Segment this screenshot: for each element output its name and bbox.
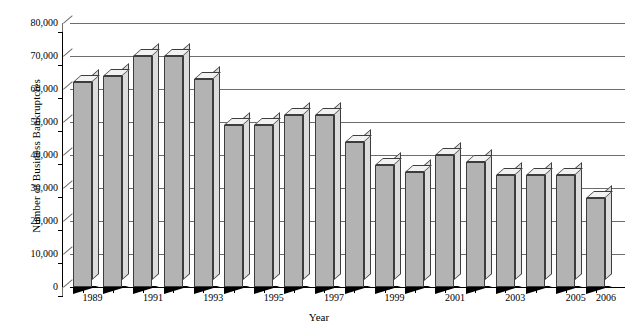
y-tick-label: 50,000 bbox=[14, 117, 58, 127]
bar-side-face bbox=[92, 69, 99, 280]
bar-front-face bbox=[133, 56, 152, 287]
x-tick-label: 1999 bbox=[375, 292, 415, 304]
chart-figure: Number of Business Bankruptcies 80,00070… bbox=[0, 0, 638, 333]
bar-side-face bbox=[515, 162, 522, 280]
bar-side-face bbox=[364, 129, 371, 280]
bar-side-face bbox=[243, 112, 250, 280]
y-tick-label: 60,000 bbox=[14, 84, 58, 94]
y-tick-label: 70,000 bbox=[14, 51, 58, 61]
bar-front-face bbox=[496, 175, 515, 287]
bar bbox=[194, 79, 213, 287]
bar-front-face bbox=[254, 125, 273, 287]
bar-front-face bbox=[315, 115, 334, 287]
bar bbox=[254, 125, 273, 287]
bar bbox=[556, 175, 575, 287]
bar-side-face bbox=[605, 185, 612, 280]
x-tick-label: 2006 bbox=[586, 292, 626, 304]
x-tick-label: 1993 bbox=[193, 292, 233, 304]
bar-front-face bbox=[466, 162, 485, 287]
bar bbox=[73, 82, 92, 287]
bar bbox=[496, 175, 515, 287]
bar-side-face bbox=[183, 43, 190, 280]
bar-side-face bbox=[122, 63, 129, 280]
bar-side-face bbox=[424, 158, 431, 280]
bar-front-face bbox=[345, 142, 364, 287]
bar-front-face bbox=[164, 56, 183, 287]
x-tick-label: 1991 bbox=[133, 292, 173, 304]
bar-front-face bbox=[586, 198, 605, 287]
bar-front-face bbox=[526, 175, 545, 287]
x-axis-title: Year bbox=[0, 311, 638, 323]
bar bbox=[345, 142, 364, 287]
bar-front-face bbox=[375, 165, 394, 287]
y-tick-label: 80,000 bbox=[14, 18, 58, 28]
bar bbox=[375, 165, 394, 287]
x-tick-label: 2003 bbox=[495, 292, 535, 304]
bar bbox=[284, 115, 303, 287]
x-axis-tick-labels: 1989199119931995199719992001200320052006 bbox=[62, 292, 632, 308]
bar bbox=[586, 198, 605, 287]
bar-side-face bbox=[545, 162, 552, 280]
y-tick-label: 40,000 bbox=[14, 150, 58, 160]
bar-front-face bbox=[103, 76, 122, 287]
bar bbox=[315, 115, 334, 287]
bar-side-face bbox=[485, 149, 492, 280]
bar-side-face bbox=[152, 43, 159, 280]
bar bbox=[405, 172, 424, 288]
bar-front-face bbox=[73, 82, 92, 287]
bar-front-face bbox=[284, 115, 303, 287]
bar-side-face bbox=[394, 152, 401, 280]
plot-area bbox=[62, 23, 625, 287]
y-tick-label: 30,000 bbox=[14, 183, 58, 193]
bar-side-face bbox=[334, 102, 341, 280]
bar-front-face bbox=[556, 175, 575, 287]
bar-front-face bbox=[224, 125, 243, 287]
x-tick-label: 1995 bbox=[254, 292, 294, 304]
bar-side-face bbox=[454, 142, 461, 280]
bar-side-face bbox=[273, 112, 280, 280]
bar bbox=[133, 56, 152, 287]
bar bbox=[435, 155, 454, 287]
y-tick-label: 0 bbox=[14, 282, 58, 292]
bar-front-face bbox=[194, 79, 213, 287]
y-tick-label: 10,000 bbox=[14, 249, 58, 259]
x-tick-label: 2001 bbox=[435, 292, 475, 304]
bar bbox=[164, 56, 183, 287]
bar-side-face bbox=[303, 102, 310, 280]
y-tick-label: 20,000 bbox=[14, 216, 58, 226]
bar bbox=[466, 162, 485, 287]
x-tick-label: 1997 bbox=[314, 292, 354, 304]
bar-side-face bbox=[213, 66, 220, 280]
bar-front-face bbox=[435, 155, 454, 287]
x-tick-label: 1989 bbox=[73, 292, 113, 304]
bar-front-face bbox=[405, 172, 424, 288]
bar-side-face bbox=[575, 162, 582, 280]
y-axis-tick-labels: 80,00070,00060,00050,00040,00030,00020,0… bbox=[12, 0, 58, 333]
bar bbox=[103, 76, 122, 287]
bar-series bbox=[62, 23, 625, 287]
bar bbox=[224, 125, 243, 287]
bar bbox=[526, 175, 545, 287]
